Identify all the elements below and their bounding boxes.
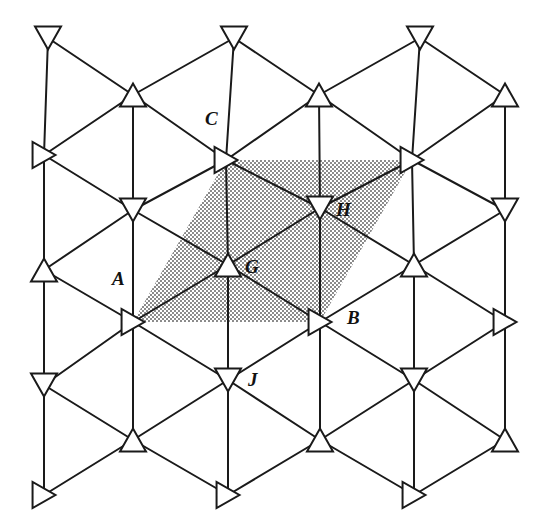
lattice-node-down-triangle: [492, 199, 518, 222]
lattice-edge: [44, 95, 133, 155]
node-label-b: B: [347, 308, 360, 327]
lattice-edge: [414, 210, 505, 265]
lattice-edge: [414, 440, 505, 495]
lattice-edge: [228, 322, 320, 380]
lattice-edge: [228, 380, 320, 440]
lattice-node-up-triangle: [31, 259, 57, 282]
lattice-edge: [319, 95, 412, 160]
node-label-a: A: [112, 269, 125, 288]
node-label-g: G: [245, 257, 259, 276]
lattice-edge: [412, 160, 505, 210]
lattice-node-up-triangle: [120, 429, 146, 452]
node-label-j: J: [248, 370, 258, 389]
node-label-h: H: [336, 200, 351, 219]
lattice-edge: [412, 160, 414, 265]
lattice-edge: [319, 38, 420, 95]
lattice-node-up-triangle: [492, 84, 518, 107]
lattice-edge: [234, 38, 319, 95]
lattice-node-down-triangle: [35, 27, 61, 50]
lattice-edge: [44, 210, 133, 270]
lattice-node-up-triangle: [401, 254, 427, 277]
lattice-edge: [228, 440, 320, 495]
lattice-node-up-triangle: [306, 84, 332, 107]
lattice-edge: [420, 38, 505, 95]
lattice-node-down-triangle: [215, 369, 241, 392]
lattice-edge: [412, 95, 505, 160]
lattice-edge: [414, 322, 505, 380]
lattice-edge: [133, 38, 234, 95]
lattice-edge: [319, 95, 320, 208]
lattice-edge: [414, 265, 505, 322]
lattice-figure: CHGABJ: [0, 0, 540, 516]
lattice-node-down-triangle: [31, 374, 57, 397]
lattice-edge: [44, 155, 133, 210]
lattice-edge: [414, 380, 505, 440]
lattice-node-up-triangle: [307, 429, 333, 452]
lattice-node-down-triangle: [401, 369, 427, 392]
lattice-edge: [320, 380, 414, 440]
lattice-edge: [226, 38, 234, 160]
lattice-node-down-triangle: [120, 199, 146, 222]
lattice-edge: [44, 440, 133, 495]
lattice-edge: [320, 322, 414, 380]
lattice-edge: [412, 38, 420, 160]
lattice-edge: [226, 95, 319, 160]
lattice-edge: [44, 38, 48, 155]
lattice-node-up-triangle: [120, 84, 146, 107]
lattice-edge: [44, 385, 133, 440]
lattice-node-down-triangle: [407, 27, 433, 50]
lattice-node-down-triangle: [221, 27, 247, 50]
lattice-edge: [133, 322, 228, 380]
lattice-edge: [48, 38, 133, 95]
lattice-edge: [44, 322, 133, 385]
lattice-edge: [320, 440, 414, 495]
node-label-c: C: [205, 109, 218, 128]
lattice-canvas: [0, 0, 540, 516]
lattice-edge: [133, 440, 228, 495]
lattice-node-up-triangle: [492, 429, 518, 452]
lattice-edge: [133, 380, 228, 440]
